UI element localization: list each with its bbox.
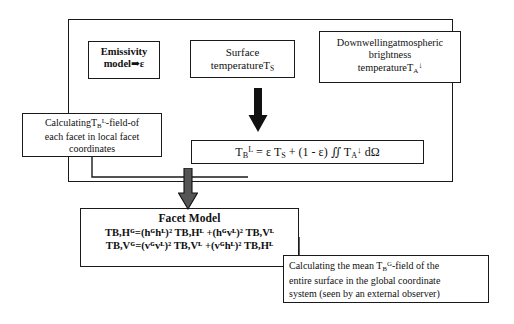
downwelling-brightness-temperature-box: Downwellingatmospheric brightness temper… (319, 31, 461, 83)
eq-differential: dΩ (365, 145, 380, 159)
calc-local-suffix: -field-of (106, 117, 139, 128)
surface-temperature-box: Surface temperatureTS (190, 40, 295, 78)
calc-local-line-1: CalculatingTBL-field-of (45, 117, 139, 128)
surface-temp-line-1: Surface (226, 46, 260, 58)
calculating-local-field-box: CalculatingTBL-field-of each facet in lo… (22, 113, 162, 157)
calc-global-line-1: Calculating the mean TBG-field of the (289, 260, 439, 271)
arrow-inputs-to-equation (248, 88, 268, 137)
equation-expression: TBL = ε TS + (1 - ε) ∬ TA↓ dΩ (235, 145, 379, 159)
down-arrow-icon: ↓ (418, 61, 422, 70)
calc-local-prefix: Calculating (45, 117, 91, 128)
facet-model-box: Facet Model TB,Hᴳ=(hᴳhᴸ)² TB,Hᴸ +(hᴳvᴸ)²… (80, 208, 299, 267)
calc-global-suffix: -field of the (392, 260, 439, 271)
right-arrow-icon: ➡ (131, 58, 140, 69)
surface-temp-line-2: temperatureTS (211, 59, 274, 71)
downwelling-line-2: brightness (369, 49, 411, 60)
downwelling-line-1: Downwellingatmospheric (337, 37, 443, 48)
facet-model-equation-2: TB,Vᴳ=(vᴳvᴸ)² TB,Vᴸ +(vᴳhᴸ)² TB,Hᴸ (81, 240, 298, 253)
calc-local-line-2: each facet in local facet (45, 131, 139, 142)
down-block-arrow-icon (178, 168, 198, 210)
calc-global-line-3: system (seen by an external observer) (289, 288, 440, 299)
calc-global-prefix: Calculating the mean (289, 260, 376, 271)
emissivity-model-box: Emissivity model➡ε (88, 41, 160, 79)
calculating-global-field-box: Calculating the mean TBG-field of the en… (283, 255, 489, 303)
eq-factor: (1 - ε) (299, 145, 328, 159)
arrow-equation-to-facet-model (178, 168, 198, 214)
brightness-temperature-equation-box: TBL = ε TS + (1 - ε) ∬ TA↓ dΩ (191, 140, 424, 164)
emissivity-model-label: model (104, 58, 131, 69)
facet-model-equation-1: TB,Hᴳ=(hᴳhᴸ)² TB,Hᴸ +(hᴳvᴸ)² TB,Vᴸ (81, 227, 298, 240)
surface-temp-label: temperatureT (211, 59, 270, 71)
eq-equals: = (256, 145, 263, 159)
eq-lhs-base: T (235, 145, 242, 159)
calc-global-line-2: entire surface in the global coordinate (289, 275, 440, 286)
diagram-canvas: Emissivity model➡ε Surface temperatureTS… (0, 0, 514, 324)
facet-model-title: Facet Model (81, 212, 298, 226)
emissivity-line-1: Emissivity (89, 46, 159, 58)
emissivity-line-2: model➡ε (89, 58, 159, 70)
down-block-arrow-icon (248, 88, 268, 133)
eq-double-integral-icon: ∬ (331, 145, 341, 159)
surface-temp-subscript: S (270, 64, 274, 73)
downwelling-line-3: temperatureTA↓ (358, 62, 423, 73)
eq-term1: ε T (266, 145, 281, 159)
calc-local-line-3: coordinates (69, 143, 115, 154)
emissivity-symbol: ε (140, 58, 145, 69)
eq-plus: + (289, 145, 296, 159)
downwelling-temp-label: temperatureT (358, 62, 413, 73)
